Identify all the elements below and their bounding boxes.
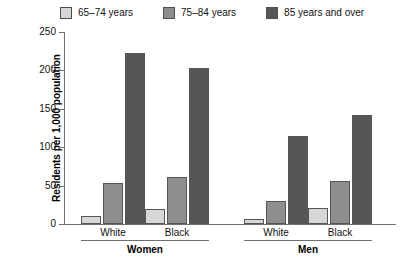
legend-label-75-84: 75–84 years <box>181 8 236 18</box>
y-tick-label-250: 250 <box>39 27 56 37</box>
category-label: Black <box>310 227 370 238</box>
category-label: White <box>246 227 306 238</box>
legend-item-75-84: 75–84 years <box>163 7 236 19</box>
category-axis: WhiteBlackWhiteBlackWomenMen <box>64 225 396 263</box>
y-tick-label-150: 150 <box>39 104 56 114</box>
bar <box>244 219 264 224</box>
legend-swatch-75-84 <box>163 7 175 19</box>
bar <box>330 181 350 224</box>
legend-label-85-over: 85 years and over <box>284 8 364 18</box>
bar <box>308 208 328 224</box>
bar <box>189 68 209 224</box>
y-tick-label-100: 100 <box>39 142 56 152</box>
bar <box>266 201 286 224</box>
bar-series-group <box>64 32 396 224</box>
legend-item-65-74: 65–74 years <box>60 7 133 19</box>
group-rule <box>81 240 209 241</box>
bar <box>288 136 308 224</box>
category-label: White <box>83 227 143 238</box>
group-label: Women <box>105 244 185 255</box>
group-label: Men <box>268 244 348 255</box>
y-tick-label-0: 0 <box>50 219 56 229</box>
bar <box>352 115 372 224</box>
legend-label-65-74: 65–74 years <box>78 8 133 18</box>
category-label: Black <box>147 227 207 238</box>
y-tick-label-200: 200 <box>39 65 56 75</box>
bar <box>145 209 165 224</box>
y-tick-label-50: 50 <box>45 181 56 191</box>
chart-legend: 65–74 years 75–84 years 85 years and ove… <box>60 5 390 21</box>
bar-chart: 65–74 years 75–84 years 85 years and ove… <box>0 0 404 263</box>
legend-swatch-85-over <box>266 7 278 19</box>
plot-area: Residents per 1,000 population 050100150… <box>64 32 396 224</box>
bar <box>81 216 101 224</box>
bar <box>103 183 123 224</box>
legend-swatch-65-74 <box>60 7 72 19</box>
legend-item-85-over: 85 years and over <box>266 7 364 19</box>
bar <box>125 53 145 224</box>
group-rule <box>244 240 372 241</box>
bar <box>167 177 187 224</box>
